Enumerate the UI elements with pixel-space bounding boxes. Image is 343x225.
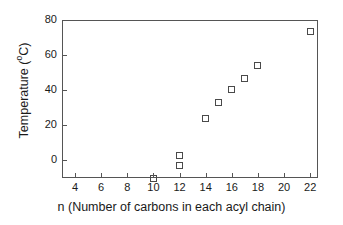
x-tick-mark <box>232 173 233 178</box>
x-tick-mark <box>284 173 285 178</box>
y-tick-mark <box>62 160 67 161</box>
x-axis-label: n (Number of carbons in each acyl chain) <box>0 200 343 214</box>
x-tick-mark <box>206 173 207 178</box>
x-tick-mark <box>101 173 102 178</box>
x-tick-label: 22 <box>295 181 325 193</box>
x-tick-mark <box>258 173 259 178</box>
chart-figure: 020406080 46810121416182022 Temperature … <box>0 0 343 225</box>
y-axis-label-suffix: C) <box>17 43 31 56</box>
y-axis-label-prefix: Temperature ( <box>17 61 31 139</box>
degree-symbol-icon: o <box>14 56 24 61</box>
x-tick-mark <box>153 173 154 178</box>
y-axis-label: Temperature (oC) <box>18 1 31 181</box>
y-tick-mark <box>62 55 67 56</box>
plot-area <box>62 20 318 178</box>
x-tick-mark <box>180 173 181 178</box>
x-tick-mark <box>75 173 76 178</box>
y-tick-mark <box>62 90 67 91</box>
y-tick-mark <box>62 20 67 21</box>
y-tick-mark <box>62 125 67 126</box>
x-tick-mark <box>127 173 128 178</box>
x-tick-mark <box>310 173 311 178</box>
